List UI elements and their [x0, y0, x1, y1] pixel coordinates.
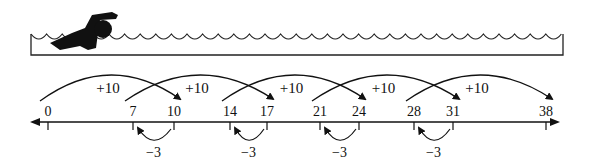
tick-label: 31: [446, 104, 460, 119]
tick-label: 7: [130, 104, 137, 119]
jump-label: +10: [280, 80, 303, 96]
minus-three-arc: [235, 128, 264, 140]
tick-label: 21: [313, 104, 327, 119]
tick-label: 17: [260, 104, 274, 119]
forward-jumps: +10+10+10+10+10: [40, 75, 552, 101]
tick-label: 14: [223, 104, 237, 119]
tick-label: 38: [539, 104, 553, 119]
right-arrow-icon: [550, 118, 560, 126]
jump-label: −3: [146, 145, 161, 160]
jump-label: +10: [96, 80, 119, 96]
tick-labels: 071014172124283138: [45, 104, 554, 119]
diagram: 071014172124283138 +10+10+10+10+10 −3−3−…: [0, 0, 589, 168]
minus-three-arc: [419, 128, 450, 140]
pool: [31, 34, 563, 55]
diagram-canvas: 071014172124283138 +10+10+10+10+10 −3−3−…: [0, 0, 589, 168]
jump-label: −3: [241, 145, 256, 160]
jump-label: −3: [426, 145, 441, 160]
minus-three-arc: [138, 128, 171, 140]
jump-label: +10: [372, 80, 395, 96]
water-waves: [31, 34, 561, 39]
jump-label: −3: [332, 145, 347, 160]
tick-label: 24: [352, 104, 366, 119]
swimmer-icon: [50, 12, 118, 50]
minus-three-arc: [325, 128, 356, 140]
tick-label: 28: [407, 104, 421, 119]
tick-label: 10: [167, 104, 181, 119]
number-line: [30, 118, 560, 126]
left-arrow-icon: [30, 118, 40, 126]
tick-label: 0: [45, 104, 52, 119]
backward-jumps: −3−3−3−3: [138, 128, 450, 160]
jump-label: +10: [185, 80, 208, 96]
ticks: [48, 122, 546, 130]
jump-label: +10: [465, 80, 488, 96]
